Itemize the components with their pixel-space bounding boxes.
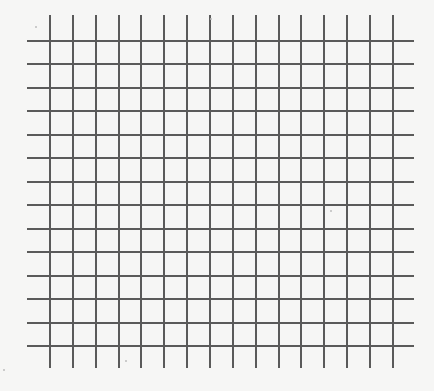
paper-speck xyxy=(330,210,332,212)
paper-speck xyxy=(210,18,212,20)
grid-paper xyxy=(0,0,434,391)
paper-speck xyxy=(125,360,127,362)
paper-speck xyxy=(3,369,5,371)
paper-speck xyxy=(35,26,37,28)
